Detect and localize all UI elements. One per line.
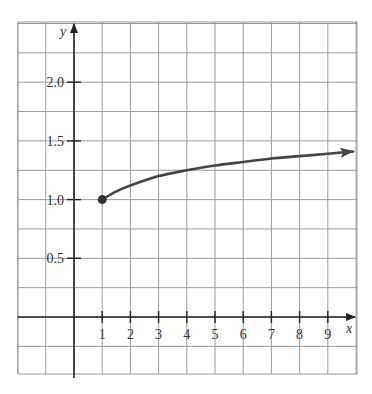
y-tick-label: 1.0 bbox=[47, 193, 65, 208]
y-axis-label: y bbox=[58, 24, 67, 39]
x-tick-label: 9 bbox=[324, 327, 331, 342]
curve-line bbox=[102, 151, 353, 199]
x-tick-label: 7 bbox=[268, 327, 275, 342]
start-point-dot bbox=[98, 195, 107, 204]
x-tick-label: 8 bbox=[296, 327, 303, 342]
x-tick-label: 4 bbox=[183, 327, 190, 342]
chart: 1234567890.51.01.52.0 x y bbox=[0, 0, 372, 394]
x-tick-label: 1 bbox=[99, 327, 106, 342]
x-tick-label: 3 bbox=[155, 327, 162, 342]
y-tick-label: 2.0 bbox=[47, 75, 65, 90]
y-tick-label: 0.5 bbox=[47, 251, 65, 266]
x-axis-label: x bbox=[345, 321, 353, 336]
y-tick-label: 1.5 bbox=[47, 134, 65, 149]
ticks: 1234567890.51.01.52.0 bbox=[47, 75, 332, 342]
x-tick-label: 6 bbox=[240, 327, 247, 342]
x-tick-label: 2 bbox=[127, 327, 134, 342]
x-tick-label: 5 bbox=[212, 327, 219, 342]
series bbox=[98, 151, 353, 204]
